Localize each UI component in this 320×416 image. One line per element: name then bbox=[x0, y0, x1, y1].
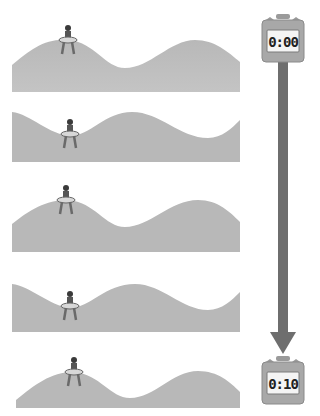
timer-start-label: 0:00 bbox=[267, 32, 299, 52]
wave-panel-3 bbox=[0, 180, 250, 260]
wave-crest-illustration bbox=[0, 20, 250, 100]
wave-panel-5 bbox=[0, 340, 250, 416]
time-arrow-icon bbox=[270, 62, 296, 358]
stopwatch-start: 0:00 bbox=[260, 12, 306, 64]
wave-crest-illustration bbox=[0, 180, 250, 260]
timer-end-label: 0:10 bbox=[267, 374, 299, 394]
wave-trough-illustration bbox=[0, 270, 250, 340]
wave-panel-4 bbox=[0, 270, 250, 340]
stopwatch-end: 0:10 bbox=[260, 354, 306, 406]
wave-panel-2 bbox=[0, 100, 250, 180]
wave-trough-illustration bbox=[0, 100, 250, 180]
wave-panel-1 bbox=[0, 20, 250, 100]
wave-crest-illustration bbox=[0, 340, 250, 416]
